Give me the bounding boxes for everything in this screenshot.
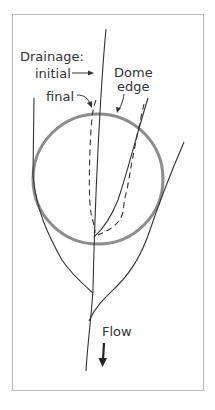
initial-label: initial — [35, 66, 71, 81]
final-arrow-icon — [77, 95, 92, 108]
flow-arrow-icon — [99, 343, 108, 367]
dome-edge-arrow-icon — [116, 94, 124, 113]
final-stream-right — [98, 104, 144, 235]
dome-label-line1: Dome — [114, 65, 153, 80]
dome-edge-circle — [33, 114, 163, 244]
drainage-label: Drainage: — [20, 49, 84, 64]
initial-arrow-icon — [72, 71, 94, 76]
left-tributary — [33, 98, 93, 293]
flow-label: Flow — [102, 324, 132, 339]
final-label: final — [46, 89, 74, 104]
drainage-diagram: Drainage: initial final Dome edge Flow — [0, 0, 215, 410]
dome-label-line2: edge — [117, 79, 150, 94]
